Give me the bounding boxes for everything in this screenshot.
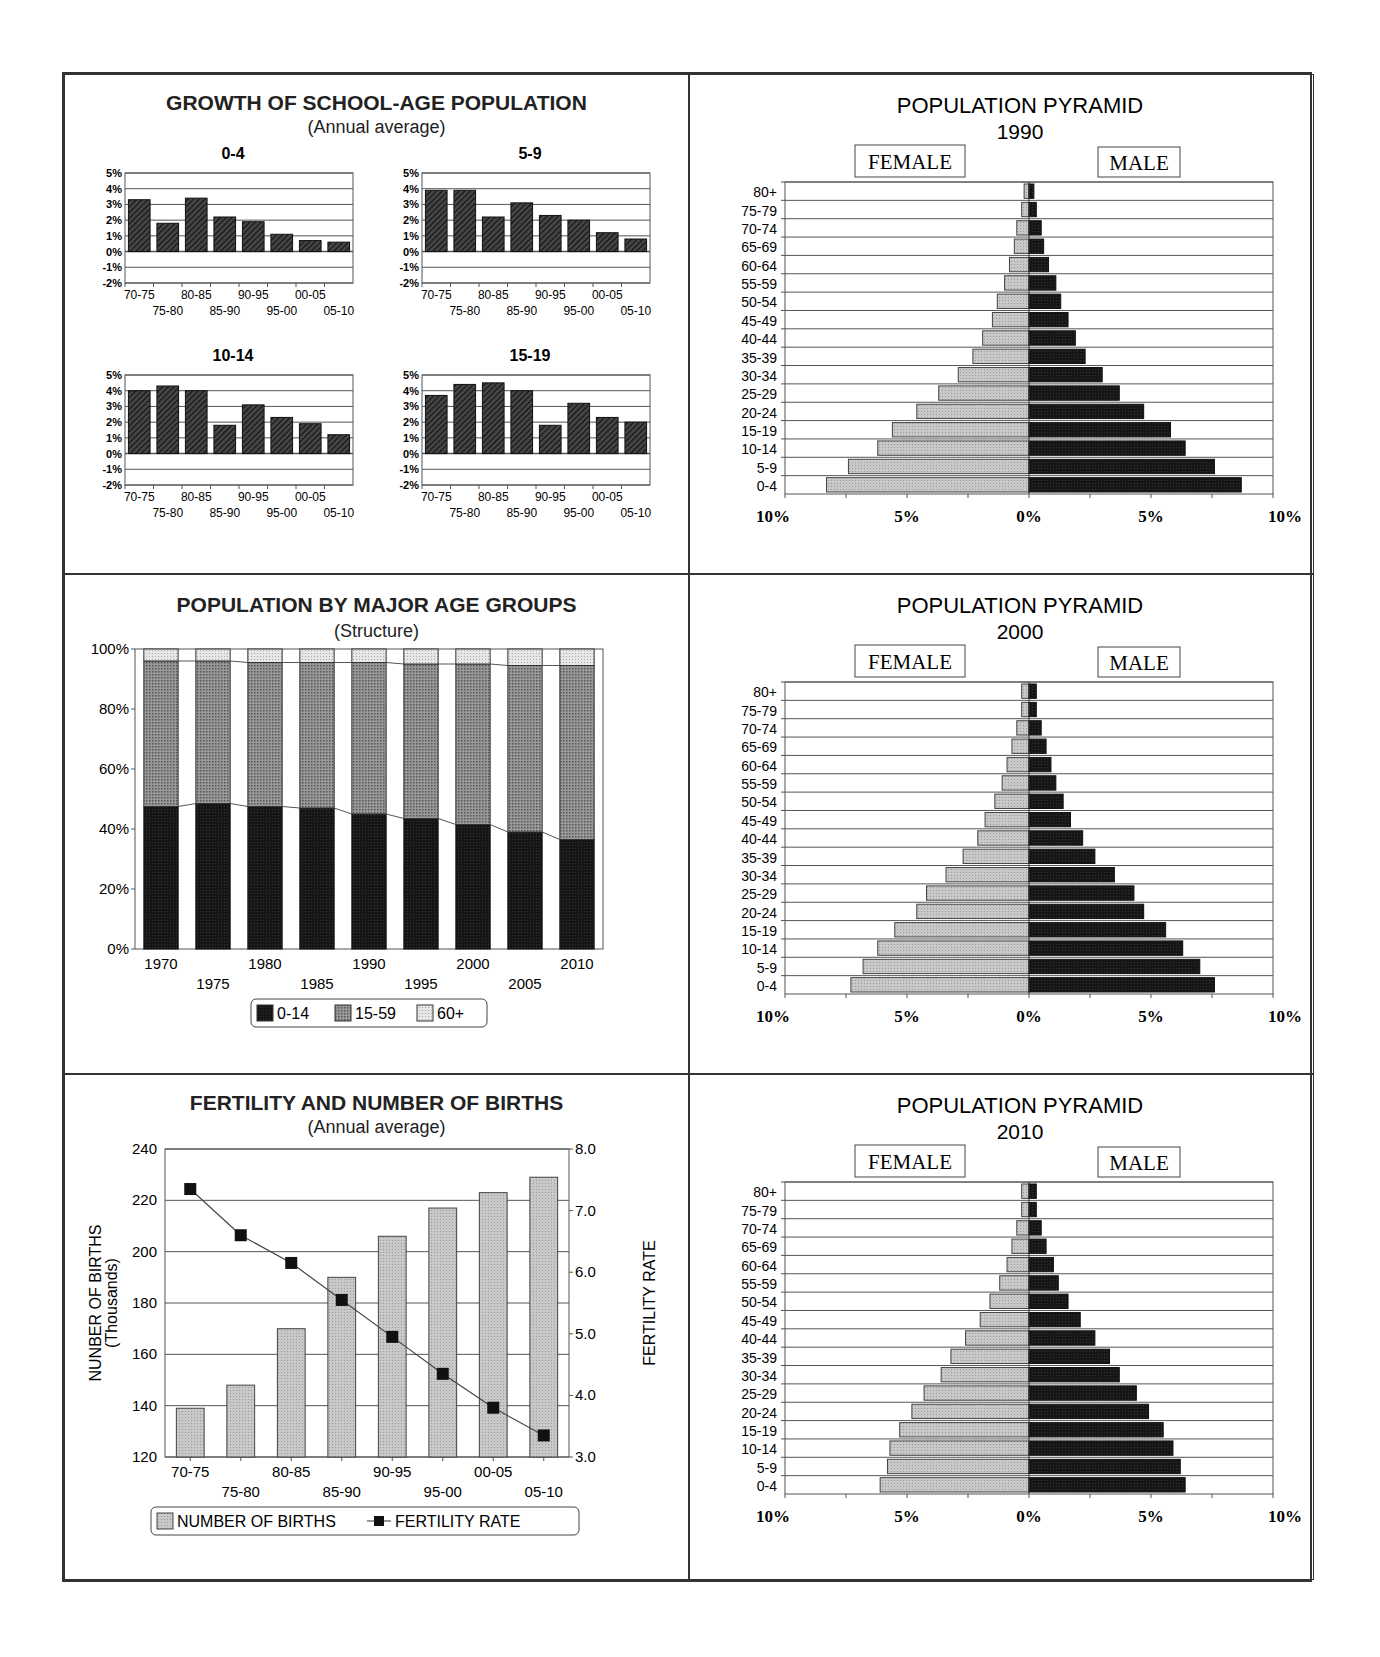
bar-15-59: [144, 661, 178, 807]
growth-bar: [596, 233, 618, 252]
svg-text:1%: 1%: [106, 230, 122, 242]
growth-title: GROWTH OF SCHOOL-AGE POPULATION: [65, 91, 688, 115]
female-bar: [880, 1478, 1029, 1492]
svg-text:5%: 5%: [106, 369, 122, 381]
male-bar: [1029, 257, 1049, 271]
fertility-marker: [184, 1183, 196, 1195]
svg-text:45-49: 45-49: [741, 313, 777, 329]
male-bar: [1029, 1349, 1110, 1363]
male-bar: [1029, 276, 1056, 290]
svg-text:-2%: -2%: [102, 479, 122, 491]
growth-chart-label: 0-4: [221, 145, 244, 162]
growth-bar: [425, 395, 447, 453]
svg-text:95-00: 95-00: [563, 304, 594, 318]
female-bar: [985, 812, 1029, 826]
female-bar: [1022, 1202, 1029, 1216]
svg-text:15-19: 15-19: [741, 1423, 777, 1439]
female-bar: [1017, 1221, 1029, 1235]
svg-text:50-54: 50-54: [741, 794, 777, 810]
svg-text:0-4: 0-4: [757, 978, 777, 994]
svg-text:5%: 5%: [1138, 1507, 1164, 1526]
female-bar: [1012, 739, 1029, 753]
bar-15-59: [560, 666, 594, 840]
structure-legend: 0-1415-5960+: [251, 999, 487, 1027]
bar-60plus: [456, 649, 490, 664]
svg-text:15-19: 15-19: [741, 923, 777, 939]
pyramid-2010-panel: POPULATION PYRAMID2010FEMALEMALE80+75-79…: [689, 1074, 1314, 1580]
male-bar: [1029, 404, 1144, 418]
growth-bar: [482, 217, 504, 252]
svg-text:35-39: 35-39: [741, 350, 777, 366]
growth-bar: [568, 403, 590, 453]
svg-text:10%: 10%: [1268, 507, 1302, 526]
svg-text:85-90: 85-90: [506, 304, 537, 318]
svg-text:2%: 2%: [403, 214, 419, 226]
svg-text:3%: 3%: [106, 198, 122, 210]
female-bar: [1022, 1184, 1029, 1198]
svg-text:2005: 2005: [508, 975, 541, 992]
svg-text:MALE: MALE: [1109, 651, 1169, 675]
female-bar: [887, 1459, 1029, 1473]
svg-text:-1%: -1%: [102, 463, 122, 475]
growth-bar: [128, 391, 150, 454]
male-bar: [1029, 423, 1171, 437]
male-bar: [1029, 1221, 1041, 1235]
svg-text:1995: 1995: [404, 975, 437, 992]
female-bar: [995, 794, 1029, 808]
births-bar: [479, 1193, 507, 1457]
female-bar: [966, 1331, 1029, 1345]
svg-text:10-14: 10-14: [741, 941, 777, 957]
male-bar: [1029, 312, 1068, 326]
growth-bar: [596, 417, 618, 453]
svg-text:70-74: 70-74: [741, 1221, 777, 1237]
svg-text:1990: 1990: [352, 955, 385, 972]
svg-text:05-10: 05-10: [525, 1483, 563, 1500]
svg-text:-2%: -2%: [399, 479, 419, 491]
male-bar: [1029, 978, 1214, 992]
svg-text:0-4: 0-4: [757, 1478, 777, 1494]
bar-60plus: [144, 649, 178, 661]
growth-chart-5-9: 5-95%4%3%2%1%0%-1%-2%70-7580-8590-9500-0…: [380, 145, 680, 345]
svg-text:80+: 80+: [753, 684, 777, 700]
female-bar: [1024, 184, 1029, 198]
svg-text:05-10: 05-10: [323, 304, 354, 318]
svg-text:FERTILITY RATE: FERTILITY RATE: [641, 1240, 658, 1365]
svg-text:200: 200: [132, 1243, 157, 1260]
svg-text:35-39: 35-39: [741, 850, 777, 866]
male-bar: [1029, 923, 1166, 937]
svg-text:50-54: 50-54: [741, 294, 777, 310]
svg-text:00-05: 00-05: [295, 288, 326, 302]
bar-60plus: [560, 649, 594, 666]
svg-text:60+: 60+: [437, 1005, 464, 1022]
fertility-marker: [285, 1257, 297, 1269]
svg-text:05-10: 05-10: [620, 506, 651, 520]
svg-text:2%: 2%: [403, 416, 419, 428]
svg-text:1975: 1975: [196, 975, 229, 992]
bar-0-14: [404, 819, 438, 950]
svg-text:5%: 5%: [106, 167, 122, 179]
male-bar: [1029, 349, 1085, 363]
female-bar: [878, 941, 1029, 955]
fertility-legend: NUMBER OF BIRTHSFERTILITY RATE: [151, 1507, 579, 1535]
male-bar: [1029, 1257, 1053, 1271]
svg-text:10-14: 10-14: [741, 441, 777, 457]
female-bar: [826, 478, 1029, 492]
female-bar: [848, 459, 1029, 473]
svg-text:0%: 0%: [1016, 1507, 1042, 1526]
svg-text:00-05: 00-05: [474, 1463, 512, 1480]
female-bar: [958, 368, 1029, 382]
female-bar: [1000, 1276, 1029, 1290]
pyramid-2000-panel: POPULATION PYRAMID2000FEMALEMALE80+75-79…: [689, 574, 1314, 1074]
svg-text:25-29: 25-29: [741, 1386, 777, 1402]
svg-text:40-44: 40-44: [741, 331, 777, 347]
svg-text:2010: 2010: [560, 955, 593, 972]
growth-bar: [539, 425, 561, 453]
bar-60plus: [196, 649, 230, 661]
female-bar: [917, 904, 1029, 918]
female-bar: [997, 294, 1029, 308]
svg-text:10%: 10%: [756, 1007, 790, 1026]
male-bar: [1029, 202, 1036, 216]
male-bar: [1029, 1368, 1119, 1382]
male-bar: [1029, 1404, 1149, 1418]
female-bar: [1007, 757, 1029, 771]
